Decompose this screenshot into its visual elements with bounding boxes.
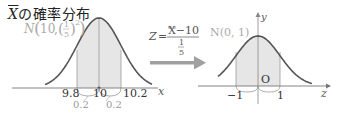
origin-label: O	[261, 73, 270, 86]
width-label-1: 0.2	[73, 99, 89, 110]
standardization-formula: Z = X−10 1 5	[148, 24, 199, 57]
right-y-axis-label: y	[260, 11, 267, 22]
right-distribution-label: N(0, 1)	[210, 26, 249, 39]
left-x-axis-label: x	[158, 85, 165, 98]
formula-Z: Z	[148, 30, 157, 43]
formula-eq: =	[158, 30, 167, 43]
tick-1: 1	[277, 89, 284, 102]
left-distribution-label: N ( 10 , ( 1 5 ) 2 )	[23, 18, 86, 39]
formula-den-num: 1	[179, 38, 184, 47]
sigma-num: 1	[64, 20, 69, 29]
tick-10: 10	[93, 87, 107, 100]
inner-paren-open: (	[58, 20, 64, 38]
width-label-2: 0.2	[106, 99, 122, 110]
right-y-arrowhead	[256, 12, 261, 17]
paren-close: )	[79, 18, 86, 38]
label-mean: 10	[40, 22, 55, 36]
diagram-canvas: 9.8 10 10.2 0.2 0.2 x N ( 10 , ( 1 5 ) 2…	[0, 0, 345, 118]
tick-10-2: 10.2	[123, 87, 148, 100]
formula-den-den: 5	[179, 48, 184, 57]
formula-numerator: X−10	[168, 24, 199, 37]
sigma-den: 5	[64, 30, 69, 39]
right-x-axis-label: z	[320, 87, 327, 100]
arrow-icon	[150, 56, 206, 70]
tick-neg-1: −1	[227, 89, 243, 102]
